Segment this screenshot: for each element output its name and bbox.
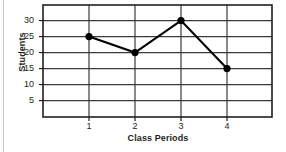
- data-point-2: [131, 49, 138, 56]
- data-point-4: [223, 65, 230, 72]
- y-tick-label-5: 5: [12, 95, 34, 105]
- data-point-3: [177, 17, 184, 24]
- x-axis-title: Class Periods: [43, 133, 273, 143]
- data-line-students: [89, 21, 227, 69]
- x-tick-label-2: 2: [125, 121, 145, 131]
- plot-grid: [43, 5, 272, 117]
- x-tick-label-4: 4: [217, 121, 237, 131]
- chart-container: 30 25 20 15 10 5 1 2 3 4 Students Class …: [0, 0, 286, 152]
- data-markers: [85, 17, 230, 72]
- data-point-1: [85, 33, 92, 40]
- x-tick-label-3: 3: [171, 121, 191, 131]
- x-tick-label-1: 1: [79, 121, 99, 131]
- y-axis-title: Students: [17, 22, 27, 82]
